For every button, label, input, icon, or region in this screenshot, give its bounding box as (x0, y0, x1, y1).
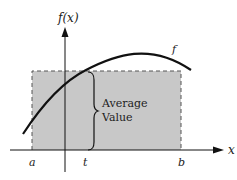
curve-label: f (171, 43, 178, 56)
x-axis-label: x (228, 143, 235, 157)
x-axis-arrow-icon (213, 147, 224, 154)
tick-label-b: b (178, 156, 185, 169)
brace-label-line1: Average (101, 97, 148, 110)
y-axis-label: f(x) (57, 11, 79, 25)
y-axis-arrow-icon (62, 27, 69, 37)
brace-label-line2: Value (101, 111, 133, 124)
tick-label-a: a (29, 156, 36, 169)
tick-label-t: t (83, 156, 88, 169)
average-value-diagram: f(x) x f Average Value a t b (0, 0, 237, 180)
